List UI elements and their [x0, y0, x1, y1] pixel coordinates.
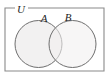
venn-diagram-canvas: U A B	[0, 0, 111, 79]
set-b-circle	[49, 21, 96, 68]
set-b-label: B	[65, 11, 72, 23]
set-a-label: A	[40, 12, 48, 24]
venn-diagram-figure: U A B	[0, 0, 111, 79]
universal-set-label: U	[17, 3, 26, 15]
